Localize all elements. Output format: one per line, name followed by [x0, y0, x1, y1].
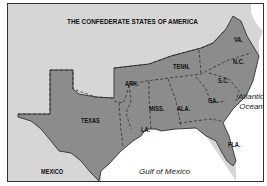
label-georgia: GA.: [208, 97, 218, 104]
label-virginia: VA.: [234, 36, 243, 43]
label-north-carolina: N.C.: [233, 58, 244, 65]
label-gulf-of-mexico: Gulf of Mexico: [139, 167, 190, 177]
label-mississippi: MISS.: [149, 105, 164, 112]
label-tennessee: TENN.: [173, 63, 190, 70]
map-frame: THE CONFEDERATE STATES OF AMERICA VA. N.…: [7, 3, 264, 182]
label-florida: FLA.: [228, 141, 240, 148]
map-graphic: [8, 4, 263, 181]
label-atlantic-ocean: Atlantic Ocean: [233, 92, 264, 112]
label-louisiana: LA.: [141, 126, 150, 133]
label-south-carolina: S.C.: [218, 77, 229, 84]
label-alabama: ALA.: [177, 105, 190, 112]
label-mexico: MEXICO: [41, 168, 63, 175]
label-arkansas: ARK.: [125, 80, 139, 87]
label-texas: TEXAS: [81, 117, 100, 124]
map-title: THE CONFEDERATE STATES OF AMERICA: [67, 17, 198, 26]
